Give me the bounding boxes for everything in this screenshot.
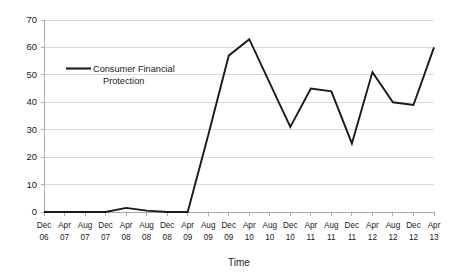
chart-background (0, 0, 452, 272)
y-tick-label-20: 20 (26, 151, 37, 162)
chart-container: Dec06Apr07Aug07Dec07Apr08Aug08Dec08Apr09… (0, 0, 452, 272)
x-tick-label-month-18: Dec (406, 221, 421, 230)
y-tick-label-60: 60 (26, 41, 37, 52)
x-tick-label-year-17: 12 (388, 233, 398, 242)
x-tick-label-year-4: 08 (122, 233, 132, 242)
x-tick-label-month-14: Aug (324, 221, 339, 230)
x-tick-label-year-5: 08 (142, 233, 152, 242)
y-tick-label-40: 40 (26, 96, 37, 107)
x-tick-label-month-6: Dec (160, 221, 175, 230)
x-tick-label-year-7: 09 (183, 233, 193, 242)
x-tick-label-year-15: 11 (348, 233, 357, 242)
y-tick-label-10: 10 (26, 179, 37, 190)
x-tick-label-month-3: Dec (98, 221, 113, 230)
x-tick-label-month-1: Apr (58, 221, 71, 230)
legend-label-line2: Protection (103, 76, 144, 86)
x-tick-label-month-9: Dec (221, 221, 236, 230)
x-tick-label-month-11: Aug (263, 221, 278, 230)
x-tick-label-year-10: 10 (245, 233, 255, 242)
x-tick-label-month-7: Apr (181, 221, 194, 230)
x-tick-label-year-13: 11 (307, 233, 316, 242)
x-tick-label-month-4: Apr (120, 221, 133, 230)
x-tick-label-month-15: Dec (345, 221, 360, 230)
x-tick-label-month-13: Apr (304, 221, 317, 230)
y-tick-label-30: 30 (26, 124, 37, 135)
x-tick-label-month-8: Aug (201, 221, 216, 230)
line-chart: Dec06Apr07Aug07Dec07Apr08Aug08Dec08Apr09… (0, 0, 452, 272)
x-tick-label-month-2: Aug (78, 221, 93, 230)
y-tick-label-70: 70 (26, 14, 37, 25)
x-tick-label-month-10: Apr (243, 221, 256, 230)
x-tick-label-year-11: 10 (265, 233, 275, 242)
x-tick-label-month-12: Dec (283, 221, 298, 230)
x-tick-label-year-18: 12 (409, 233, 419, 242)
legend-label-line1: Consumer Financial (93, 64, 175, 74)
x-tick-label-year-9: 09 (224, 233, 234, 242)
x-tick-label-month-19: Apr (428, 221, 441, 230)
x-tick-label-year-14: 11 (327, 233, 336, 242)
x-tick-label-year-19: 13 (429, 233, 439, 242)
x-tick-label-year-6: 08 (163, 233, 173, 242)
y-tick-label-0: 0 (32, 206, 37, 217)
x-axis-title: Time (228, 257, 250, 268)
x-tick-label-month-0: Dec (37, 221, 52, 230)
x-tick-label-year-2: 07 (80, 233, 90, 242)
x-tick-label-month-5: Aug (139, 221, 154, 230)
x-tick-label-year-1: 07 (60, 233, 70, 242)
x-tick-label-year-3: 07 (101, 233, 111, 242)
x-tick-label-month-17: Aug (386, 221, 401, 230)
y-tick-label-50: 50 (26, 69, 37, 80)
x-tick-label-year-8: 09 (204, 233, 214, 242)
x-tick-label-month-16: Apr (366, 221, 379, 230)
x-tick-label-year-12: 10 (286, 233, 296, 242)
x-tick-label-year-16: 12 (368, 233, 378, 242)
x-tick-label-year-0: 06 (39, 233, 49, 242)
